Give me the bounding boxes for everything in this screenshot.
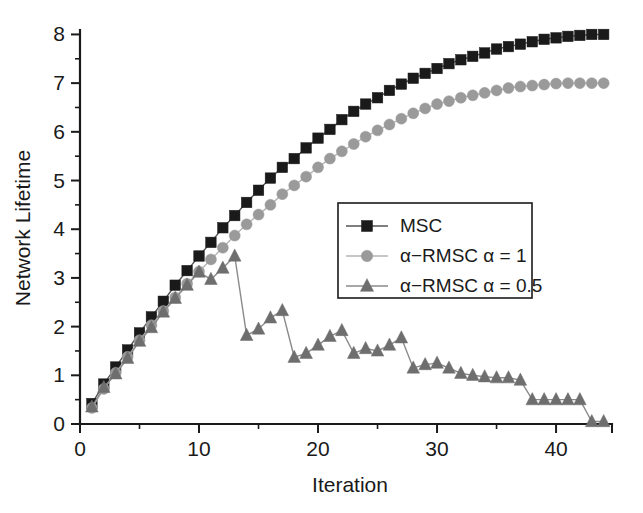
data-point-triangle	[431, 356, 444, 368]
data-point-square	[337, 114, 348, 125]
network-lifetime-line-chart: 012345678 010203040 Network Lifetime Ite…	[0, 0, 643, 513]
x-axis-ticks	[80, 424, 612, 433]
y-tick-label: 1	[53, 363, 65, 386]
data-point-square	[253, 185, 264, 196]
data-point-triangle	[228, 249, 241, 261]
data-point-square	[289, 153, 300, 164]
y-tick-label: 6	[53, 120, 65, 143]
data-point-triangle	[395, 331, 408, 343]
data-point-circle	[551, 78, 562, 89]
data-point-circle	[491, 85, 502, 96]
data-point-triangle	[526, 393, 539, 405]
data-point-square	[182, 265, 193, 276]
y-axis-ticks	[71, 34, 80, 424]
data-point-square	[444, 58, 455, 69]
data-point-square	[587, 29, 598, 40]
data-point-triangle	[312, 338, 325, 350]
legend-label: α−RMSC α = 0.5	[400, 275, 542, 296]
data-point-square	[241, 197, 252, 208]
data-point-circle	[241, 219, 252, 230]
data-point-circle	[336, 146, 347, 157]
data-point-square	[396, 79, 407, 90]
data-point-triangle	[383, 338, 396, 350]
data-point-square	[229, 210, 240, 221]
data-point-circle	[372, 125, 383, 136]
data-point-circle	[229, 230, 240, 241]
data-point-square	[325, 124, 336, 134]
data-point-square	[491, 44, 502, 55]
data-point-square	[551, 33, 562, 44]
data-point-triangle	[443, 361, 456, 373]
data-point-square	[527, 36, 538, 47]
data-point-circle	[467, 90, 478, 101]
y-axis-title: Network Lifetime	[11, 150, 34, 306]
legend-label: MSC	[400, 215, 442, 236]
x-tick-label: 0	[74, 437, 86, 460]
chart-figure: 012345678 010203040 Network Lifetime Ite…	[0, 0, 643, 513]
data-point-triangle	[550, 393, 563, 405]
chart-legend: MSCα−RMSC α = 1α−RMSC α = 0.5	[338, 203, 542, 298]
data-point-triangle	[300, 346, 313, 358]
data-point-circle	[217, 242, 228, 253]
data-point-square	[432, 63, 443, 74]
data-point-circle	[253, 209, 264, 220]
y-tick-label: 8	[53, 22, 65, 45]
x-tick-label: 30	[425, 437, 448, 460]
data-point-square	[479, 48, 490, 59]
y-tick-label: 0	[53, 412, 65, 435]
data-point-circle	[586, 78, 597, 89]
data-point-triangle	[597, 414, 610, 426]
data-point-circle	[396, 113, 407, 124]
data-point-circle	[301, 171, 312, 182]
data-point-circle	[527, 80, 538, 91]
y-tick-label: 2	[53, 315, 65, 338]
data-point-square	[348, 106, 359, 117]
data-point-square	[563, 31, 574, 41]
data-point-triangle	[562, 393, 575, 405]
x-axis-title: Iteration	[312, 473, 388, 496]
data-point-square	[265, 173, 276, 184]
data-point-circle	[384, 119, 395, 130]
data-point-circle	[324, 153, 335, 164]
data-point-square	[539, 34, 550, 45]
data-point-square	[420, 68, 431, 79]
data-point-circle	[348, 139, 359, 150]
y-tick-label: 3	[53, 266, 65, 289]
data-point-triangle	[574, 393, 587, 405]
data-point-square	[194, 251, 205, 262]
data-point-circle	[455, 92, 466, 103]
data-point-square	[408, 73, 419, 84]
data-point-circle	[289, 180, 300, 191]
data-point-square	[362, 221, 373, 232]
data-point-triangle	[264, 311, 277, 323]
data-point-circle	[562, 78, 573, 89]
x-tick-label: 40	[544, 437, 567, 460]
data-point-triangle	[455, 366, 468, 378]
data-point-triangle	[359, 341, 372, 353]
data-point-circle	[313, 162, 324, 173]
data-point-square	[277, 162, 288, 173]
data-point-square	[503, 41, 514, 52]
x-tick-label: 10	[187, 437, 210, 460]
data-point-square	[598, 29, 609, 40]
data-point-square	[301, 143, 312, 154]
legend-label: α−RMSC α = 1	[400, 245, 527, 266]
data-point-square	[384, 85, 395, 96]
y-tick-label: 7	[53, 71, 65, 94]
data-point-triangle	[538, 393, 551, 405]
data-point-triangle	[252, 322, 265, 334]
data-point-circle	[408, 108, 419, 119]
x-axis-tick-labels: 010203040	[74, 437, 568, 460]
data-point-square	[515, 39, 526, 50]
data-point-circle	[598, 78, 609, 89]
data-point-square	[170, 280, 181, 291]
data-point-circle	[420, 103, 431, 114]
data-point-circle	[574, 78, 585, 89]
data-point-circle	[432, 99, 443, 110]
data-point-circle	[443, 96, 454, 107]
data-point-triangle	[585, 414, 598, 426]
x-tick-label: 20	[306, 437, 329, 460]
data-point-square	[468, 51, 479, 62]
data-point-circle	[515, 81, 526, 92]
data-point-circle	[539, 79, 550, 90]
